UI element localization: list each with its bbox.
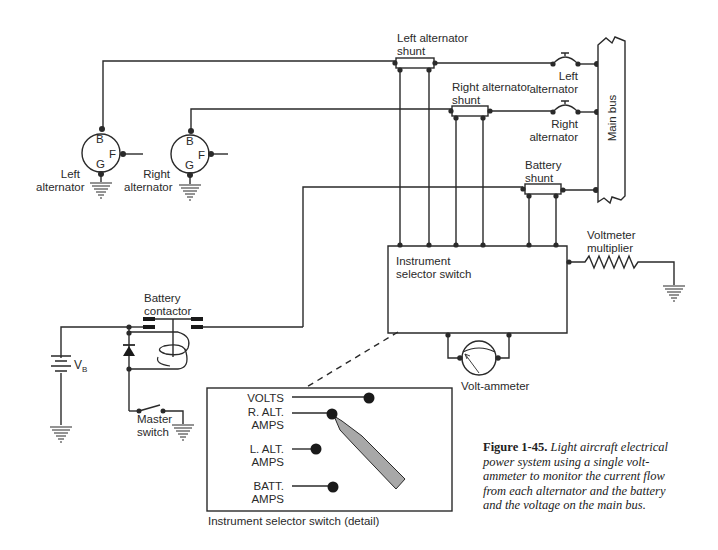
left-alternator-label: Left alternator [36,168,80,194]
right-alternator-breaker-label: Right alternator [520,118,578,144]
battery-shunt-label: Battery shunt [525,159,561,185]
selector-position-volts: VOLTS [228,392,284,405]
selector-position-batt-amps: BATT. AMPS [228,480,284,506]
left-alt-terminal-f: F [109,148,116,161]
selector-detail-title: Instrument selector switch (detail) [208,515,379,528]
ground-icon [90,183,112,198]
main-bus-label: Main bus [606,90,618,146]
right-alternator-label: Right alternator [124,168,170,194]
instrument-selector-switch-box [305,242,685,388]
left-alt-terminal-g: G [96,158,105,171]
electrical-diagram: Left alternator B F G Right alternator B… [0,0,718,550]
right-alt-terminal-b: B [186,135,194,148]
voltmeter-multiplier-label: Voltmeter multiplier [587,229,636,255]
left-alternator-breaker-label: Left alternator [520,70,578,96]
ground-icon [179,185,201,200]
volt-ammeter-label: Volt-ammeter [461,380,529,393]
right-alt-terminal-f: F [198,149,205,162]
figure-number: Figure 1-45. [483,440,547,454]
figure-caption: Figure 1-45. Light aircraft electrical p… [483,440,683,513]
left-alt-terminal-b: B [96,133,104,146]
master-switch-label: Master switch [137,413,172,439]
ground-icon [50,427,72,442]
selector-position-l-alt-amps: L. ALT. AMPS [228,443,284,469]
ground-icon [172,425,194,440]
left-alternator-shunt-label: Left alternator shunt [397,32,468,58]
battery-contactor-label: Battery contactor [144,292,191,318]
ground-icon [663,286,685,301]
right-alt-terminal-g: G [185,159,194,172]
instrument-selector-switch-label: Instrument selector switch [396,255,471,281]
right-alternator-shunt-label: Right alternator shunt [452,81,531,107]
battery-label: VB [74,359,87,376]
selector-position-r-alt-amps: R. ALT. AMPS [228,406,284,432]
